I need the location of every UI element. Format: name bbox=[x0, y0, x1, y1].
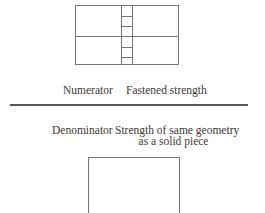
fastener-column bbox=[121, 6, 133, 64]
fastened-plates-diagram bbox=[75, 5, 179, 65]
numerator-label: Numerator bbox=[63, 84, 113, 96]
fastener-segment-line bbox=[122, 16, 132, 17]
fastener-segment-line bbox=[122, 57, 132, 58]
figure-page: Numerator Fastened strength Denominator … bbox=[0, 0, 265, 213]
fastener-segment-line bbox=[122, 26, 132, 27]
denominator-label: Denominator bbox=[52, 124, 113, 136]
solid-piece-diagram bbox=[88, 157, 180, 213]
denominator-value-line2: as a solid piece bbox=[115, 135, 232, 147]
fastener-segment-line bbox=[122, 47, 132, 48]
fraction-bar bbox=[10, 104, 248, 106]
numerator-value: Fastened strength bbox=[126, 84, 207, 96]
